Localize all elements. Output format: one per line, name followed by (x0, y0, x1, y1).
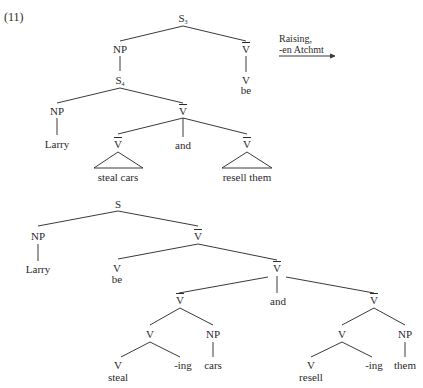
bottom-left-np-node: NP (206, 328, 220, 340)
bottom-them-word: them (394, 359, 416, 371)
top-vbar-node: V (242, 43, 250, 55)
bottom-left-v-node: V (146, 328, 154, 340)
top-embedded-s-node: S4 (115, 74, 124, 90)
transformation-line1: Raising, (279, 33, 324, 44)
bottom-resell-word: resell (299, 371, 323, 383)
bottom-right-v-node: V (338, 328, 346, 340)
bottom-right-v-stem-node: V (307, 359, 315, 371)
top-np-node: NP (113, 43, 127, 55)
bottom-larry-word: Larry (26, 263, 50, 275)
top-and-word: and (175, 139, 191, 151)
bottom-be-word: be (112, 273, 122, 285)
top-be-word: be (241, 84, 251, 96)
bottom-left-v-stem-node: V (114, 359, 122, 371)
top-right-vbar-node: V (243, 138, 251, 150)
transformation-label: Raising, -en Atchmt (279, 33, 324, 55)
top-left-vbar-node: V (114, 138, 122, 150)
top-coord-vbar-node: V (179, 105, 187, 117)
bottom-root-node: S (115, 198, 121, 210)
bottom-vbar-node: V (194, 230, 202, 242)
top-right-yield: resell them (223, 171, 272, 183)
bottom-right-vbar-node: V (370, 294, 378, 306)
bottom-cars-word: cars (204, 359, 222, 371)
top-larry-word: Larry (45, 138, 69, 150)
transformation-line2: -en Atchmt (279, 44, 324, 55)
top-root-node: S3 (178, 12, 187, 28)
bottom-left-ing-suffix: -ing (174, 359, 192, 371)
bottom-np-node: NP (31, 230, 45, 242)
bottom-left-vbar-node: V (176, 294, 184, 306)
top-left-yield: steal cars (98, 171, 139, 183)
bottom-steal-word: steal (108, 371, 128, 383)
bottom-right-np-node: NP (398, 328, 412, 340)
bottom-and-word: and (270, 295, 286, 307)
top-embedded-np-node: NP (50, 105, 64, 117)
bottom-coord-vbar-node: V (273, 262, 281, 274)
bottom-right-ing-suffix: -ing (365, 359, 383, 371)
